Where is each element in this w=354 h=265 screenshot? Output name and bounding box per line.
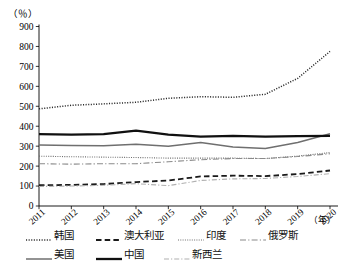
x-axis-tick-label: 2014	[124, 207, 145, 227]
y-axis-tick-label: 0	[29, 201, 34, 211]
x-axis-unit-label: （年）	[309, 214, 336, 225]
x-axis-tick-label: 2019	[285, 207, 306, 227]
y-axis-tick-label: 100	[19, 181, 34, 191]
y-axis-tick-label: 500	[19, 102, 34, 112]
legend-item-俄罗斯[interactable]: 俄罗斯	[240, 230, 298, 241]
y-axis-tick-label: 200	[19, 162, 34, 172]
legend-line-swatch-icon	[96, 250, 122, 260]
y-axis-tick-label: 800	[19, 42, 34, 52]
series-line-3	[39, 154, 330, 164]
x-axis-tick-label: 2015	[156, 207, 177, 227]
x-axis-tick-label: 2012	[59, 207, 80, 227]
legend-label: 俄罗斯	[268, 230, 298, 241]
x-axis-tick-label: 2013	[91, 207, 112, 227]
y-axis-tick-label: 900	[19, 22, 34, 32]
legend-item-新西兰[interactable]: 新西兰	[164, 249, 222, 260]
legend-item-印度[interactable]: 印度	[178, 230, 226, 241]
legend-line-swatch-icon	[26, 250, 52, 260]
legend-line-swatch-icon	[96, 231, 122, 241]
x-axis-tick-label: 2018	[253, 207, 274, 227]
legend-label: 韩国	[54, 230, 74, 241]
y-axis: 0100200300400500600700800900	[19, 22, 39, 212]
legend-line-swatch-icon	[164, 250, 190, 260]
legend-item-中国[interactable]: 中国	[96, 249, 144, 260]
legend-label: 印度	[206, 230, 226, 241]
legend-line-swatch-icon	[178, 231, 204, 241]
legend-label: 澳大利亚	[124, 230, 164, 241]
data-series-group	[39, 51, 330, 186]
legend-label: 美国	[54, 249, 74, 260]
y-axis-tick-label: 700	[19, 62, 34, 72]
legend-row: 美国中国新西兰	[0, 245, 354, 264]
legend-label: 中国	[124, 249, 144, 260]
legend-item-澳大利亚[interactable]: 澳大利亚	[96, 230, 164, 241]
x-axis: 2011201220132014201520162017201820192020	[27, 206, 339, 227]
chart-plot-area: 0100200300400500600700800900 20112012201…	[0, 0, 354, 232]
x-axis-tick-label: 2017	[221, 207, 242, 227]
legend-line-swatch-icon	[240, 231, 266, 241]
y-axis-tick-label: 300	[19, 142, 34, 152]
legend-row: 韩国澳大利亚印度俄罗斯	[0, 226, 354, 245]
series-line-0	[39, 51, 330, 108]
chart-legend: 韩国澳大利亚印度俄罗斯美国中国新西兰	[0, 226, 354, 265]
y-axis-tick-label: 400	[19, 122, 34, 132]
series-line-5	[39, 131, 330, 137]
legend-label: 新西兰	[192, 249, 222, 260]
y-axis-tick-label: 600	[19, 82, 34, 92]
legend-item-美国[interactable]: 美国	[26, 249, 74, 260]
line-chart: （％） 0100200300400500600700800900 2011201…	[0, 0, 354, 265]
legend-item-韩国[interactable]: 韩国	[26, 230, 74, 241]
legend-line-swatch-icon	[26, 231, 52, 241]
x-axis-tick-label: 2016	[188, 207, 209, 227]
